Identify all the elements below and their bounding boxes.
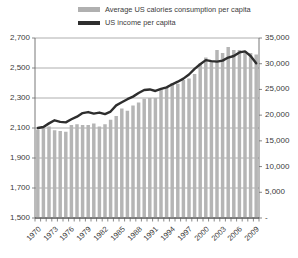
ytick-label-left: 2,100: [0, 124, 30, 132]
chart-container: Average US calories consumption per capi…: [0, 0, 298, 258]
ytick-label-left: 2,300: [0, 94, 30, 102]
ytick-label-left: 2,500: [0, 64, 30, 72]
ytick-label-right: -: [265, 214, 298, 222]
ytick-label-left: 1,700: [0, 184, 30, 192]
ytick-label-left: 1,500: [0, 214, 30, 222]
ytick-label-right: 5,000: [265, 188, 298, 196]
ytick-label-right: 35,000: [265, 34, 298, 42]
ytick-label-left: 2,700: [0, 34, 30, 42]
ytick-label-right: 25,000: [265, 85, 298, 93]
ytick-label-right: 10,000: [265, 163, 298, 171]
ytick-label-left: 1,900: [0, 154, 30, 162]
plot-area: [0, 0, 298, 258]
gridlines: [35, 38, 259, 218]
ytick-label-right: 15,000: [265, 137, 298, 145]
bar-series-calories: [36, 47, 258, 218]
ytick-label-right: 20,000: [265, 111, 298, 119]
ytick-label-right: 30,000: [265, 60, 298, 68]
